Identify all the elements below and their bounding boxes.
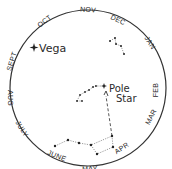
month-label-july: JULY bbox=[14, 119, 29, 138]
month-circle-diagram: OCT NOV DEC JAN FEB MAR APR MAY JUNE JUL… bbox=[0, 0, 172, 169]
vega: Vega bbox=[30, 42, 67, 55]
vega-star-icon bbox=[30, 43, 39, 52]
month-label-mar: MAR bbox=[144, 108, 158, 126]
month-label-dec: DEC bbox=[109, 13, 126, 26]
month-labels: OCT NOV DEC JAN FEB MAR APR MAY JUNE JUL… bbox=[5, 6, 159, 169]
cassiopeia-constellation bbox=[109, 37, 125, 55]
month-label-feb: FEB bbox=[152, 83, 159, 98]
big-dipper-bowl bbox=[91, 136, 113, 154]
big-dipper-constellation bbox=[54, 135, 114, 155]
month-label-oct: OCT bbox=[36, 13, 53, 28]
arrowhead-icon bbox=[104, 91, 108, 96]
month-label-sept: SEPT bbox=[5, 50, 18, 71]
big-dipper-handle bbox=[55, 140, 91, 146]
month-label-nov: NOV bbox=[80, 6, 96, 14]
month-label-aug: AUG bbox=[7, 90, 14, 106]
pointer-line bbox=[106, 96, 112, 136]
little-dipper-constellation bbox=[76, 83, 107, 102]
star-label: Star bbox=[116, 93, 137, 104]
month-ring bbox=[10, 10, 166, 166]
pole-star-icon bbox=[101, 83, 107, 89]
little-dipper-lines bbox=[77, 86, 102, 101]
month-label-june: JUNE bbox=[47, 149, 68, 163]
pointer-arrow bbox=[104, 91, 112, 136]
month-label-may: MAY bbox=[82, 165, 98, 169]
pole-star-label: Pole Star bbox=[109, 83, 137, 104]
vega-label: Vega bbox=[39, 42, 66, 55]
month-label-apr: APR bbox=[113, 141, 130, 155]
